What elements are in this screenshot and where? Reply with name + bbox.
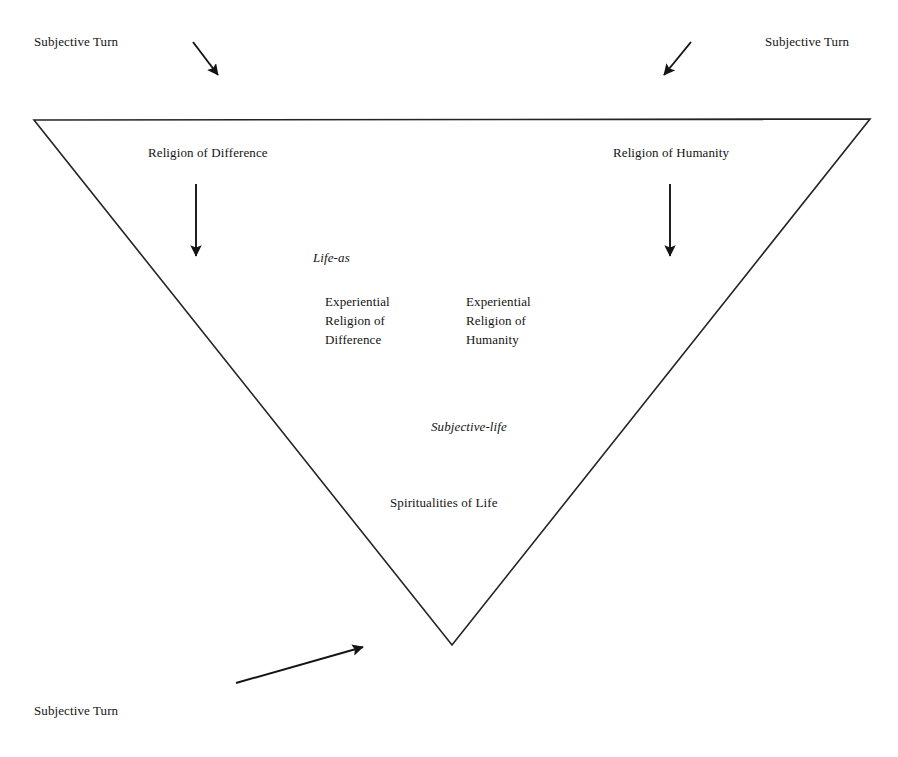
label-subjective-turn-bottom-left: Subjective Turn bbox=[34, 702, 118, 719]
label-experiential-religion-of-difference: Experiential Religion of Difference bbox=[325, 292, 390, 349]
label-spiritualities-of-life: Spiritualities of Life bbox=[390, 494, 498, 511]
label-life-as: Life-as bbox=[313, 249, 350, 266]
inverted-triangle-shape bbox=[34, 119, 870, 645]
label-religion-of-difference: Religion of Difference bbox=[148, 144, 268, 161]
label-subjective-turn-top-left: Subjective Turn bbox=[34, 33, 118, 50]
arrow-bottom-left-diagonal-icon bbox=[236, 647, 363, 683]
label-religion-of-humanity: Religion of Humanity bbox=[613, 144, 729, 161]
label-subjective-turn-top-right: Subjective Turn bbox=[765, 33, 849, 50]
arrow-top-right-diagonal-icon bbox=[664, 42, 691, 75]
diagram-canvas: Subjective Turn Subjective Turn Subjecti… bbox=[0, 0, 898, 757]
label-experiential-religion-of-humanity: Experiential Religion of Humanity bbox=[466, 292, 531, 349]
label-subjective-life: Subjective-life bbox=[431, 418, 507, 435]
diagram-vector-layer bbox=[0, 0, 898, 757]
arrow-top-left-diagonal-icon bbox=[193, 42, 218, 75]
